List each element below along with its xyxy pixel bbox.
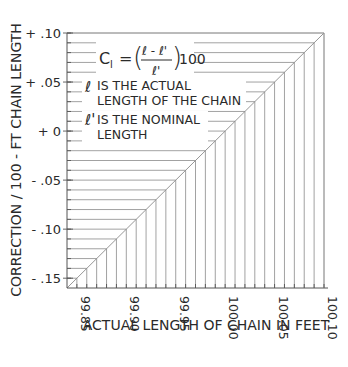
note1-line2: LENGTH OF THE CHAIN xyxy=(97,93,241,108)
ell-symbol: ℓ xyxy=(84,78,91,96)
y-tick-label: - .05 xyxy=(32,173,62,188)
formula-subscript: l xyxy=(110,59,113,70)
y-tick-label: - .15 xyxy=(32,271,62,286)
y-axis-ticks: + .10+ .05+ 0- .05- .10- .15 xyxy=(25,26,73,286)
formula-numerator: ℓ - ℓ' xyxy=(141,44,167,58)
y-tick-label: + 0 xyxy=(38,124,61,139)
x-axis-title: ACTUAL LENGTH OF CHAIN IN FEET xyxy=(83,317,330,333)
formula-equals: = xyxy=(119,49,132,68)
y-tick-label: + .10 xyxy=(25,26,61,41)
y-tick-label: + .05 xyxy=(25,75,61,90)
formula-annotation: C l = ( ℓ - ℓ' ℓ' ) 100 xyxy=(96,38,206,82)
note2-line2: LENGTH xyxy=(97,127,148,142)
note1-line1: IS THE ACTUAL xyxy=(97,78,191,93)
note-actual-length: ℓ IS THE ACTUAL LENGTH OF THE CHAIN xyxy=(82,78,246,110)
y-tick-label: - .10 xyxy=(32,222,62,237)
formula-multiplier: 100 xyxy=(179,51,206,67)
ell-prime-symbol: ℓ' xyxy=(84,111,95,129)
formula-lhs: C xyxy=(99,49,110,68)
note-nominal-length: ℓ' IS THE NOMINAL LENGTH xyxy=(82,111,208,143)
formula-denominator: ℓ' xyxy=(151,64,160,78)
y-axis-title: CORRECTION / 100 - FT CHAIN LENGTH xyxy=(8,23,24,297)
note2-line1: IS THE NOMINAL xyxy=(97,112,200,127)
chain-correction-chart: + .10+ .05+ 0- .05- .10- .15 99.8599.909… xyxy=(0,0,348,367)
